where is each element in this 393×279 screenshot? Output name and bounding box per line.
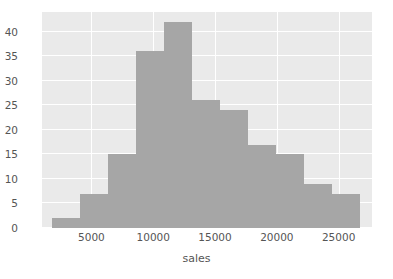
y-tick-label: 20 <box>0 125 18 136</box>
y-tick-label: 15 <box>0 149 18 160</box>
x-tick-label: 25000 <box>309 232 369 243</box>
y-tick-label: 35 <box>0 51 18 62</box>
y-tick-label: 25 <box>0 100 18 111</box>
y-tick-label: 30 <box>0 76 18 87</box>
y-tick-label: 5 <box>0 198 18 209</box>
x-tick-label: 10000 <box>123 232 183 243</box>
y-tick-label: 10 <box>0 174 18 185</box>
y-tick-label: 0 <box>0 223 18 234</box>
x-tick-label: 5000 <box>61 232 121 243</box>
histogram-figure: 0510152025303540 50001000015000200002500… <box>0 0 393 279</box>
x-tick-label: 15000 <box>185 232 245 243</box>
x-tick-label: 20000 <box>247 232 307 243</box>
x-axis-label: sales <box>0 252 393 265</box>
y-tick-label: 40 <box>0 27 18 38</box>
